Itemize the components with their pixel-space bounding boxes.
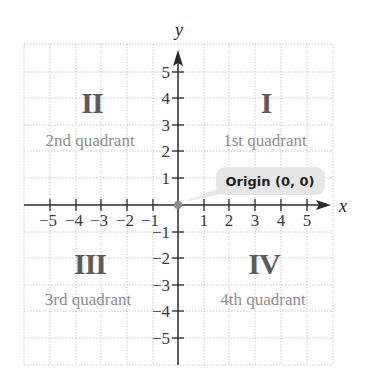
y-tick-label: 3	[162, 116, 171, 135]
y-tick-label: −5	[152, 329, 170, 348]
x-tick-label: 5	[303, 211, 312, 230]
x-tick-label: −2	[116, 211, 134, 230]
origin-point	[174, 201, 182, 209]
x-tick-label: 2	[225, 211, 234, 230]
x-tick-label: −4	[65, 211, 84, 230]
y-tick-label: −3	[152, 276, 170, 295]
quadrant-4-numeral: IV	[248, 247, 281, 280]
quadrant-2-numeral: II	[81, 86, 103, 119]
origin-label: Origin (0, 0)	[226, 174, 315, 189]
y-tick-label: 1	[162, 169, 171, 188]
y-tick-label: 4	[162, 89, 171, 108]
x-tick-label: 3	[251, 211, 260, 230]
x-tick-label: −5	[39, 211, 57, 230]
x-tick-label: 4	[277, 211, 286, 230]
quadrant-4-label: 4th quadrant	[220, 290, 306, 309]
y-tick-label: 5	[162, 63, 171, 82]
coordinate-plane: Origin (0, 0) y x −5 −4	[0, 0, 367, 386]
x-tick-label: −3	[90, 211, 108, 230]
y-tick-label: −1	[152, 223, 170, 242]
quadrant-2-label: 2nd quadrant	[45, 131, 135, 150]
quadrant-1-label: 1st quadrant	[223, 131, 307, 150]
x-tick-label: 1	[200, 211, 209, 230]
y-tick-label: −2	[152, 249, 170, 268]
x-tick-labels: −5 −4 −3 −2 −1 1 2 3 4 5	[39, 211, 311, 230]
quadrant-3-numeral: III	[74, 247, 106, 280]
quadrant-3-label: 3rd quadrant	[45, 290, 132, 309]
x-axis-label: x	[338, 196, 347, 216]
origin-callout: Origin (0, 0)	[184, 167, 325, 202]
y-axis-label: y	[173, 20, 183, 40]
quadrant-1-numeral: I	[261, 86, 272, 119]
y-tick-label: −4	[152, 302, 171, 321]
y-tick-label: 2	[162, 142, 171, 161]
